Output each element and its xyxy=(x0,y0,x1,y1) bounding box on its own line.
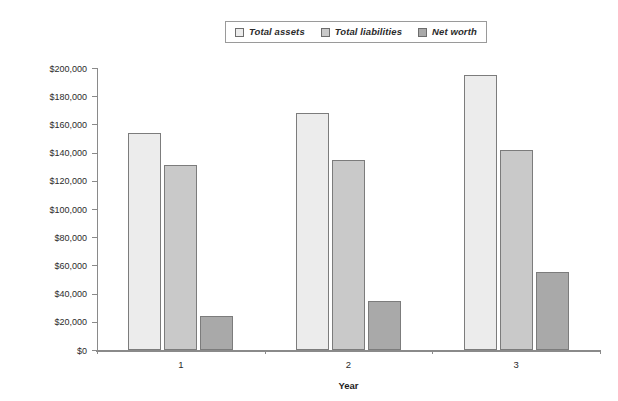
bar-total-assets-year-2 xyxy=(296,113,329,350)
y-axis-tick: $40,000 xyxy=(92,294,97,295)
y-axis-tick-label: $200,000 xyxy=(49,64,87,73)
y-axis-tick-label: $40,000 xyxy=(54,290,87,299)
x-axis-category-label: 1 xyxy=(178,360,183,370)
legend-swatch-icon-total-assets xyxy=(235,28,244,37)
y-axis-tick: $80,000 xyxy=(92,237,97,238)
bar-total-liabilities-year-3 xyxy=(500,150,533,350)
legend-label-total-liabilities: Total liabilities xyxy=(335,27,402,37)
x-axis-category-label: 2 xyxy=(346,360,351,370)
bar-chart: Total assets Total liabilities Net worth… xyxy=(0,0,618,401)
y-axis-tick-label: $180,000 xyxy=(49,92,87,101)
y-axis-tick-label: $120,000 xyxy=(49,177,87,186)
y-axis-line xyxy=(97,68,98,350)
x-axis-tick xyxy=(600,350,601,354)
x-axis-tick xyxy=(265,350,266,354)
y-axis-tick-label: $160,000 xyxy=(49,120,87,129)
y-axis-tick-label: $0 xyxy=(77,346,87,355)
y-axis-tick: $160,000 xyxy=(92,124,97,125)
bar-net-worth-year-3 xyxy=(536,272,569,350)
x-axis-tick xyxy=(432,350,433,354)
legend-label-total-assets: Total assets xyxy=(249,27,305,37)
legend-entry-total-liabilities: Total liabilities xyxy=(321,27,402,37)
x-axis-title: Year xyxy=(97,381,600,391)
bar-net-worth-year-2 xyxy=(368,301,401,350)
legend-label-net-worth: Net worth xyxy=(432,27,477,37)
y-axis-tick: $120,000 xyxy=(92,181,97,182)
bar-total-liabilities-year-1 xyxy=(164,165,197,350)
chart-legend: Total assets Total liabilities Net worth xyxy=(225,21,487,43)
y-axis-tick: $60,000 xyxy=(92,265,97,266)
y-axis-tick: $180,000 xyxy=(92,96,97,97)
bar-total-liabilities-year-2 xyxy=(332,160,365,350)
legend-swatch-icon-net-worth xyxy=(418,28,427,37)
plot-area: $200,000$180,000$160,000$140,000$120,000… xyxy=(97,68,600,350)
legend-entry-total-assets: Total assets xyxy=(235,27,305,37)
y-axis-tick: $200,000 xyxy=(92,68,97,69)
x-axis-tick xyxy=(97,350,98,354)
y-axis-tick: $100,000 xyxy=(92,209,97,210)
bar-total-assets-year-1 xyxy=(128,133,161,350)
x-axis-line xyxy=(96,350,600,352)
y-axis-tick: $20,000 xyxy=(92,322,97,323)
legend-entry-net-worth: Net worth xyxy=(418,27,477,37)
bar-net-worth-year-1 xyxy=(200,316,233,350)
y-axis-tick-label: $20,000 xyxy=(54,318,87,327)
y-axis-tick-label: $80,000 xyxy=(54,233,87,242)
y-axis-tick: $140,000 xyxy=(92,153,97,154)
x-axis-category-label: 3 xyxy=(514,360,519,370)
bar-total-assets-year-3 xyxy=(464,75,497,350)
y-axis-tick-label: $60,000 xyxy=(54,261,87,270)
y-axis-tick-label: $100,000 xyxy=(49,205,87,214)
y-axis-tick-label: $140,000 xyxy=(49,149,87,158)
legend-swatch-icon-total-liabilities xyxy=(321,28,330,37)
